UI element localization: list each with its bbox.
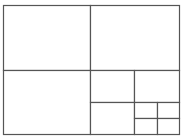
cell-brr-top-right [158,103,180,119]
cell-brr-bottom-right [158,119,180,135]
cell-brr-bottom-left [135,119,158,135]
cell-br-top-left [91,71,135,103]
cell-top-left [4,6,91,71]
cell-top-right [91,6,180,71]
cell-bottom-left [4,71,91,135]
subdivision-diagram [0,0,182,137]
cell-br-top-right [135,71,180,103]
cell-br-bottom-left [91,103,135,135]
cell-brr-top-left [135,103,158,119]
